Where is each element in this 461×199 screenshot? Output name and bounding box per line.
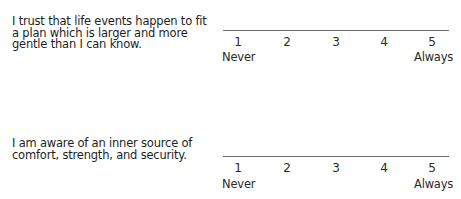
scale-option-4[interactable]: 4 bbox=[374, 36, 394, 48]
rating-scale-line[interactable] bbox=[223, 156, 449, 157]
scale-high-label: Always bbox=[414, 51, 453, 63]
scale-option-3[interactable]: 3 bbox=[326, 36, 346, 48]
question-text: I trust that life events happen to fit a… bbox=[12, 16, 212, 51]
scale-option-3[interactable]: 3 bbox=[326, 162, 346, 174]
scale-high-label: Always bbox=[414, 178, 453, 190]
scale-low-label: Never bbox=[222, 51, 255, 63]
scale-option-2[interactable]: 2 bbox=[277, 162, 297, 174]
scale-option-1[interactable]: 1 bbox=[228, 36, 248, 48]
scale-option-5[interactable]: 5 bbox=[422, 36, 442, 48]
rating-scale-line[interactable] bbox=[223, 30, 449, 31]
scale-low-label: Never bbox=[222, 178, 255, 190]
scale-option-5[interactable]: 5 bbox=[422, 162, 442, 174]
question-text: I am aware of an inner source of comfort… bbox=[12, 138, 212, 161]
scale-option-2[interactable]: 2 bbox=[277, 36, 297, 48]
scale-option-4[interactable]: 4 bbox=[374, 162, 394, 174]
scale-option-1[interactable]: 1 bbox=[228, 162, 248, 174]
